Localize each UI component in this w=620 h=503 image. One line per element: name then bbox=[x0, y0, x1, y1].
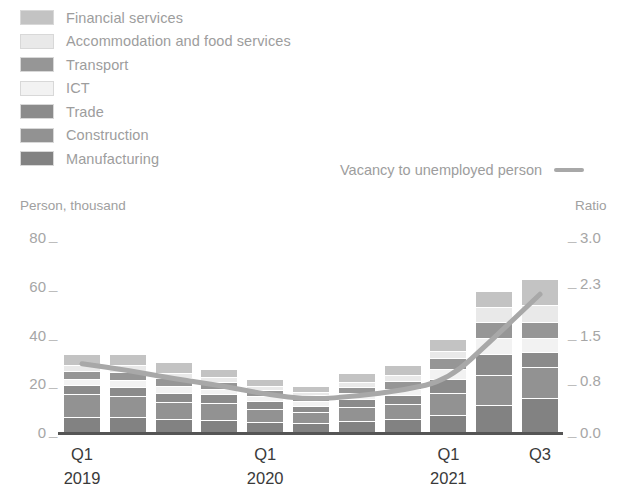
bar-segment-manufacturing bbox=[110, 417, 146, 432]
bar-q4-2020[interactable] bbox=[385, 0, 421, 432]
bar-segment-ict bbox=[476, 338, 512, 354]
bar-segment-manufacturing bbox=[430, 415, 466, 432]
bar-segment-accommodation-and-food-services bbox=[201, 377, 237, 381]
y2-axis-tick-0.8: 0.8 bbox=[580, 372, 601, 389]
y-axis-tick-dash: _ bbox=[49, 226, 57, 243]
bar-segment-financial-services bbox=[339, 373, 375, 382]
bar-segment-transport bbox=[522, 322, 558, 338]
bar-segment-accommodation-and-food-services bbox=[110, 365, 146, 371]
y-axis-tick-dash: _ bbox=[49, 421, 57, 438]
bar-segment-manufacturing bbox=[247, 422, 283, 432]
bar-segment-accommodation-and-food-services bbox=[293, 392, 329, 395]
bar-segment-transport bbox=[110, 372, 146, 381]
y2-axis-tick-0: 0.0 bbox=[580, 424, 601, 441]
bar-segment-trade bbox=[247, 401, 283, 408]
bar-q2-2020[interactable] bbox=[293, 0, 329, 432]
bar-segment-financial-services bbox=[110, 354, 146, 365]
y-axis-tick-60: 60 bbox=[14, 277, 46, 294]
x-axis-group-label: Q3 bbox=[500, 444, 580, 464]
bar-segment-accommodation-and-food-services bbox=[430, 351, 466, 359]
bar-segment-financial-services bbox=[293, 386, 329, 392]
bar-q2-2019[interactable] bbox=[110, 0, 146, 432]
bar-segment-accommodation-and-food-services bbox=[339, 382, 375, 387]
y2-axis-tick-2.3: 2.3 bbox=[580, 274, 601, 291]
bar-segment-transport bbox=[64, 371, 100, 379]
x-axis-year-label: 2020 bbox=[225, 468, 305, 488]
bar-segment-accommodation-and-food-services bbox=[522, 305, 558, 322]
bar-q1-2020[interactable] bbox=[247, 0, 283, 432]
bar-segment-ict bbox=[247, 396, 283, 401]
bar-segment-financial-services bbox=[522, 279, 558, 305]
bar-segment-ict bbox=[385, 389, 421, 396]
bar-q1-2019[interactable] bbox=[64, 0, 100, 432]
bar-segment-ict bbox=[110, 380, 146, 386]
bar-segment-construction bbox=[110, 396, 146, 416]
bar-segment-financial-services bbox=[385, 365, 421, 375]
bar-segment-ict bbox=[339, 393, 375, 399]
bar-segment-construction bbox=[293, 412, 329, 423]
bar-segment-trade bbox=[339, 399, 375, 407]
bar-segment-trade bbox=[385, 395, 421, 404]
bar-segment-ict bbox=[293, 401, 329, 406]
bar-segment-trade bbox=[522, 352, 558, 367]
bar-q2-2021[interactable] bbox=[476, 0, 512, 432]
bar-segment-trade bbox=[430, 379, 466, 393]
bar-segment-financial-services bbox=[201, 369, 237, 378]
bar-segment-construction bbox=[430, 393, 466, 415]
bar-segment-construction bbox=[522, 367, 558, 399]
y-axis-tick-0: 0 bbox=[14, 424, 46, 441]
bar-q3-2019[interactable] bbox=[156, 0, 192, 432]
bar-segment-ict bbox=[64, 379, 100, 385]
bar-q1-2021[interactable] bbox=[430, 0, 466, 432]
y2-axis-tick-dash: _ bbox=[568, 323, 576, 340]
bar-segment-manufacturing bbox=[476, 405, 512, 432]
y2-axis-tick-dash: _ bbox=[568, 421, 576, 438]
x-axis-quarter-label: Q3 bbox=[500, 444, 580, 464]
y-axis-tick-dash: _ bbox=[49, 274, 57, 291]
bar-segment-construction bbox=[247, 409, 283, 422]
y-axis-tick-20: 20 bbox=[14, 375, 46, 392]
bar-segment-ict bbox=[430, 369, 466, 379]
bar-segment-transport bbox=[156, 378, 192, 386]
bar-segment-transport bbox=[385, 381, 421, 389]
bar-segment-trade bbox=[156, 393, 192, 402]
x-axis-year-label: 2021 bbox=[408, 468, 488, 488]
x-axis-line bbox=[58, 432, 563, 435]
plot-area: 0_20_40_60_80__0.0_0.8_1.5_2.3_3.0Q12019… bbox=[0, 0, 620, 503]
bar-segment-financial-services bbox=[476, 291, 512, 307]
bar-q3-2020[interactable] bbox=[339, 0, 375, 432]
y-axis-tick-40: 40 bbox=[14, 326, 46, 343]
bar-segment-transport bbox=[476, 322, 512, 338]
y2-axis-tick-dash: _ bbox=[568, 226, 576, 243]
x-axis-group-label: Q12020 bbox=[225, 444, 305, 488]
bar-segment-manufacturing bbox=[156, 419, 192, 432]
x-axis-quarter-label: Q1 bbox=[225, 444, 305, 464]
bar-segment-transport bbox=[201, 382, 237, 389]
bar-segment-manufacturing bbox=[522, 398, 558, 432]
y2-axis-tick-1.5: 1.5 bbox=[580, 326, 601, 343]
bar-segment-trade bbox=[110, 387, 146, 397]
bar-segment-ict bbox=[201, 389, 237, 395]
bar-segment-construction bbox=[156, 402, 192, 420]
bar-segment-financial-services bbox=[247, 379, 283, 386]
bar-segment-trade bbox=[64, 385, 100, 394]
x-axis-year-label: 2019 bbox=[42, 468, 122, 488]
y-axis-tick-80: 80 bbox=[14, 229, 46, 246]
bar-segment-manufacturing bbox=[339, 421, 375, 432]
bar-q4-2019[interactable] bbox=[201, 0, 237, 432]
y2-axis-tick-dash: _ bbox=[568, 369, 576, 386]
y-axis-tick-dash: _ bbox=[49, 323, 57, 340]
bar-segment-transport bbox=[247, 390, 283, 396]
chart-root: Financial services Accommodation and foo… bbox=[0, 0, 620, 503]
bar-segment-manufacturing bbox=[64, 417, 100, 432]
bar-segment-accommodation-and-food-services bbox=[247, 386, 283, 390]
bar-q3-2021[interactable] bbox=[522, 0, 558, 432]
bar-segment-manufacturing bbox=[293, 423, 329, 432]
bar-segment-construction bbox=[64, 394, 100, 417]
x-axis-quarter-label: Q1 bbox=[42, 444, 122, 464]
y2-axis-tick-dash: _ bbox=[568, 271, 576, 288]
bar-segment-construction bbox=[201, 403, 237, 420]
bar-segment-financial-services bbox=[430, 339, 466, 351]
bar-segment-trade bbox=[201, 394, 237, 403]
bar-segment-manufacturing bbox=[201, 420, 237, 432]
